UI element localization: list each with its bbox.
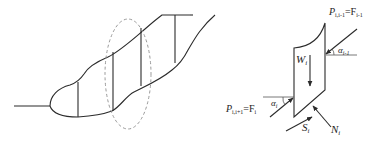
alpha-left-label: αi (271, 98, 278, 109)
alpha-right-label: αi-1 (338, 45, 349, 56)
slope-top-surface (50, 15, 190, 106)
weight-label: Wi (296, 53, 307, 67)
force-p-right-label: Pi,i-1=Fi-1 (328, 6, 363, 18)
normal-arrow (313, 106, 331, 127)
shear-label: Si (302, 121, 310, 135)
slope-section (14, 15, 215, 129)
highlight-dashed-ellipse (105, 19, 151, 129)
alpha-right-arc (332, 49, 334, 55)
force-p-left-label: Pi,i+1=Fi (225, 103, 257, 115)
normal-label: Ni (330, 123, 340, 137)
slope-slice-diagram: Wi αi-1 Pi,i-1=Fi-1 αi Pi,i+1=Fi Si Ni (0, 0, 373, 143)
slip-surface (50, 15, 215, 117)
alpha-left-arc (283, 97, 285, 105)
free-body-diagram: Wi αi-1 Pi,i-1=Fi-1 αi Pi,i+1=Fi Si Ni (225, 6, 363, 137)
